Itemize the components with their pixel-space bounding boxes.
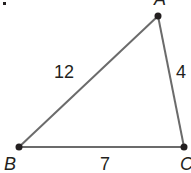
vertex-c-point (181, 144, 188, 151)
vertex-c-label: C (180, 154, 191, 173)
triangle-sides (19, 16, 184, 147)
side-ac-length: 4 (176, 62, 186, 82)
side-ab (19, 16, 158, 147)
problem-marker-dot (3, 2, 6, 5)
side-bc-length: 7 (100, 154, 110, 173)
vertex-a-label: A (153, 0, 166, 9)
vertex-a-point (155, 13, 162, 20)
vertex-b-label: B (4, 154, 16, 173)
vertex-b-point (16, 144, 23, 151)
side-ab-length: 12 (54, 62, 74, 82)
triangle-diagram: A B C 12 4 7 (0, 0, 191, 173)
